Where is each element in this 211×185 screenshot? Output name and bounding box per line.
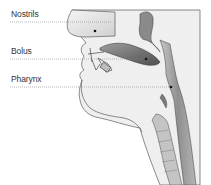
marker-dot-nostrils bbox=[94, 30, 97, 33]
nose-shape bbox=[67, 10, 115, 37]
head-cross-section-illustration bbox=[0, 0, 211, 185]
anatomy-diagram: Nostrils Bolus Pharynx bbox=[0, 0, 211, 185]
label-bolus: Bolus bbox=[11, 46, 32, 56]
marker-dot-pharynx bbox=[170, 86, 173, 89]
label-nostrils: Nostrils bbox=[11, 9, 39, 19]
label-pharynx: Pharynx bbox=[11, 74, 41, 84]
marker-dot-bolus bbox=[145, 58, 148, 61]
